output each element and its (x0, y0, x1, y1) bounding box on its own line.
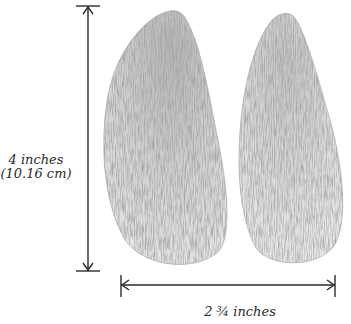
width-label: 2 ¾ inches (180, 305, 300, 319)
left-seed-illustration (104, 11, 227, 265)
height-label-cm: (10.16 cm) (0, 167, 72, 181)
height-label: 4 inches (10.16 cm) (0, 153, 72, 181)
width-dimension-line (121, 275, 335, 297)
height-dimension-line (76, 6, 100, 271)
height-label-inches: 4 inches (0, 153, 72, 167)
right-seed-illustration (239, 13, 343, 262)
